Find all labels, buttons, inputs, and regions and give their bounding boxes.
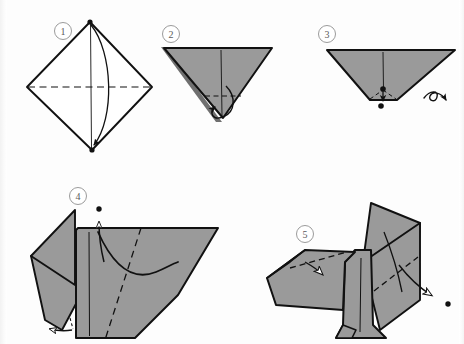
step-1-paper-diamond xyxy=(27,22,152,150)
step-5-badge: 5 xyxy=(297,226,314,243)
step-badge-label: 4 xyxy=(76,191,81,202)
step-5-reference-dot xyxy=(445,301,450,306)
step-3-lower-reference-dot xyxy=(378,103,384,109)
step-2-paper-triangle xyxy=(164,48,272,118)
step-3-badge: 3 xyxy=(319,26,336,43)
scan-edge-left xyxy=(0,0,7,344)
step-1-top-vertex-dot xyxy=(87,19,92,24)
step-badge-label: 1 xyxy=(61,26,66,37)
step-1-badge: 1 xyxy=(55,23,72,40)
step-4-badge: 4 xyxy=(70,188,87,205)
step-4-body xyxy=(76,228,218,338)
step-3-turn-over-arrow xyxy=(424,92,446,101)
step-2-figure: 2 xyxy=(161,26,272,123)
diagram-canvas: 1 2 xyxy=(0,0,464,344)
step-1-bottom-vertex-dot xyxy=(89,147,94,152)
step-3-vertical-crease xyxy=(383,52,384,89)
step-4-vertical-crease xyxy=(89,232,90,336)
step-3-figure: 3 xyxy=(319,26,456,109)
step-3-upper-reference-dot xyxy=(380,86,386,92)
origami-diagram-page: 1 2 xyxy=(0,0,464,344)
step-4-tuck-fold-line xyxy=(70,318,73,329)
step-4-figure: 4 xyxy=(31,188,218,341)
step-badge-label: 3 xyxy=(325,29,330,40)
step-5-head xyxy=(267,250,355,310)
step-5-figure: 5 xyxy=(267,203,451,338)
step-4-reference-dot xyxy=(96,206,101,211)
step-1-figure: 1 xyxy=(27,19,152,152)
scan-edge-right xyxy=(459,0,464,344)
step-2-badge: 2 xyxy=(163,26,180,43)
step-badge-label: 2 xyxy=(169,29,174,40)
step-badge-label: 5 xyxy=(303,229,308,240)
